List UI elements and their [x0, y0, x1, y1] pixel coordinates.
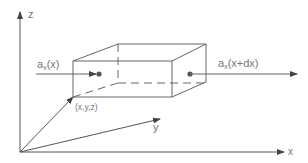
- flux-in-label: ax(x): [37, 58, 59, 71]
- x-axis-label: x: [288, 146, 293, 157]
- flux-out-arg: (x+dx): [228, 57, 259, 69]
- flux-control-volume-diagram: z x y (x,y,z) ax(x) ax(x+dx): [0, 0, 308, 163]
- flux-out-label: ax(x+dx): [218, 57, 259, 70]
- box-top-left-edge: [73, 44, 118, 61]
- box-front-face: [73, 61, 172, 97]
- box-top-right-edge: [172, 44, 206, 61]
- z-axis-label: z: [28, 8, 34, 20]
- point-label: (x,y,z): [75, 102, 98, 112]
- position-vector: [20, 97, 73, 152]
- y-axis: [20, 119, 160, 152]
- y-axis-label: y: [153, 121, 159, 133]
- box-bottom-right-edge: [172, 82, 206, 97]
- box-hidden-bottom-left-edge: [73, 83, 118, 97]
- flux-in-point: [96, 71, 101, 76]
- flux-in-arg: (x): [47, 58, 60, 70]
- diagram-canvas: z x y (x,y,z) ax(x) ax(x+dx): [0, 0, 308, 163]
